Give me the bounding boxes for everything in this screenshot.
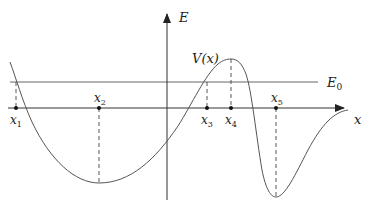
- potential-curve: [10, 59, 348, 197]
- e-axis-label: E: [178, 10, 189, 25]
- label-x3: x3: [201, 113, 213, 129]
- point-x4: [229, 106, 233, 110]
- energy-level-subscript: 0: [337, 82, 343, 92]
- label-x4-sub: 4: [232, 120, 237, 129]
- label-x3-sub: 3: [208, 120, 213, 129]
- label-x4: x4: [225, 113, 237, 129]
- point-x1: [14, 106, 18, 110]
- potential-energy-diagram: E x V(x) E0 x1 x2 x3 x4 x5: [0, 0, 370, 206]
- energy-level-label: E0: [326, 75, 343, 92]
- energy-level-base: E: [326, 75, 337, 90]
- x-axis-label: x: [354, 112, 362, 127]
- label-x5-sub: 5: [278, 98, 283, 107]
- label-x2: x2: [94, 91, 106, 107]
- label-x1: x1: [10, 113, 22, 129]
- curve-label: V(x): [192, 51, 219, 66]
- label-x2-sub: 2: [101, 98, 106, 107]
- label-x1-sub: 1: [17, 120, 22, 129]
- point-x3: [205, 106, 209, 110]
- dashed-guides: [16, 59, 276, 197]
- label-x5: x5: [271, 91, 283, 107]
